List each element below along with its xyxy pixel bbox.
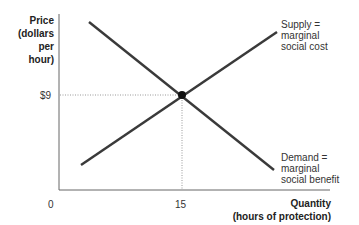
x-axis-label: Quantity (hours of protection): [220, 197, 331, 223]
supply-label: Supply = marginal social cost: [281, 19, 328, 52]
y-label-line: Price: [8, 14, 54, 27]
y-label-line: per: [8, 40, 54, 53]
y-label-line: (dollars: [8, 27, 54, 40]
x-tick-15: 15: [175, 199, 186, 210]
y-tick-9: $9: [28, 90, 51, 101]
demand-label: Demand = marginal social benefit: [281, 152, 339, 185]
x-label-line: Quantity: [220, 197, 331, 210]
demand-label-line: marginal: [281, 163, 339, 174]
equilibrium-point: [178, 91, 186, 99]
origin-label: 0: [48, 199, 54, 210]
supply-label-line: Supply =: [281, 19, 328, 30]
supply-label-line: marginal: [281, 30, 328, 41]
y-label-line: hour): [8, 53, 54, 66]
supply-curve: [81, 32, 277, 165]
demand-label-line: Demand =: [281, 152, 339, 163]
x-label-line: (hours of protection): [220, 210, 331, 223]
y-axis-label: Price (dollars per hour): [8, 14, 54, 66]
demand-label-line: social benefit: [281, 174, 339, 185]
supply-label-line: social cost: [281, 41, 328, 52]
